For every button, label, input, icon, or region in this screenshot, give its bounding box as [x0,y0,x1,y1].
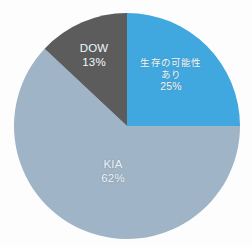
pie-label-survival-line1: 生存の可能性 [128,57,214,69]
pie-label-kia-percent: 62% [82,171,144,185]
pie-label-dow-name: DOW [64,41,124,55]
pie-label-kia: KIA 62% [82,157,144,185]
pie-label-kia-name: KIA [82,157,144,171]
pie-chart-svg [0,0,252,247]
pie-label-dow-percent: 13% [64,55,124,69]
pie-label-survival-possible: 生存の可能性 あり 25% [128,57,214,93]
pie-label-survival-percent: 25% [128,80,214,93]
pie-label-dow: DOW 13% [64,41,124,69]
pie-chart-figure: 生存の可能性 あり 25% DOW 13% KIA 62% [0,0,252,247]
pie-label-survival-line2: あり [128,69,214,81]
